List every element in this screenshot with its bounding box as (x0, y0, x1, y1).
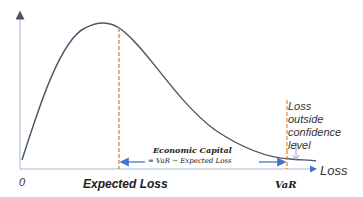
tail-annotation-line-1: Loss (288, 100, 341, 113)
tail-annotation: Loss outside confidence level (288, 100, 341, 152)
var-label: VaR (275, 179, 297, 190)
expected-loss-label: Expected Loss (83, 177, 168, 191)
tail-annotation-line-2: outside (288, 113, 341, 126)
x-axis-label: Loss (320, 163, 347, 178)
loss-distribution-curve (22, 23, 316, 161)
tail-annotation-line-3: confidence (288, 126, 341, 139)
economic-capital-formula: = VaR − Expected Loss (148, 157, 232, 165)
economic-capital-title: Economic Capital (153, 145, 232, 155)
origin-label: 0 (19, 176, 25, 188)
tail-annotation-line-4: level (288, 139, 341, 152)
loss-distribution-diagram (0, 0, 363, 197)
